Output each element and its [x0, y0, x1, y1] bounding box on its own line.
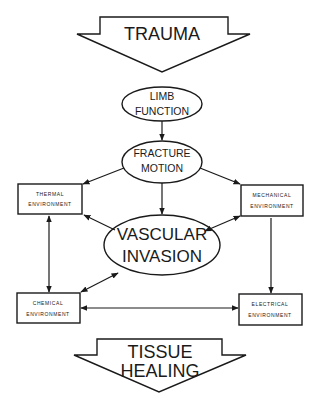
electrical-line1: ELECTRICAL [252, 301, 289, 307]
node-fracture-motion: FRACTURE MOTION [122, 141, 202, 183]
electrical-line2: ENVIRONMENT [248, 312, 292, 318]
limb-function-line1: LIMB [150, 90, 175, 102]
vascular-line1: VASCULAR [117, 225, 207, 244]
limb-function-line2: FUNCTION [135, 105, 189, 117]
edge-vascular-chemical [81, 273, 118, 292]
tissue-healing-arrow: TISSUE HEALING [74, 339, 246, 392]
trauma-label: TRAUMA [124, 24, 200, 44]
fracture-motion-line2: MOTION [141, 162, 183, 174]
node-limb-function: LIMB FUNCTION [122, 87, 202, 121]
flow-diagram: TRAUMA LIMB FUNCTION FRACTURE MOTION THE… [0, 0, 320, 410]
edge-vascular-mechanical [205, 216, 240, 231]
tissue-healing-line2: HEALING [120, 361, 199, 381]
trauma-arrow: TRAUMA [77, 17, 250, 72]
node-vascular-invasion: VASCULAR INVASION [104, 215, 220, 275]
edge-fracture-to-thermal [83, 168, 124, 184]
mechanical-line2: ENVIRONMENT [250, 203, 294, 209]
edge-vascular-to-thermal [84, 215, 115, 230]
node-chemical-environment: CHEMICAL ENVIRONMENT [17, 293, 80, 323]
node-electrical-environment: ELECTRICAL ENVIRONMENT [239, 294, 302, 325]
tissue-healing-line1: TISSUE [127, 342, 192, 362]
fracture-motion-line1: FRACTURE [133, 147, 190, 159]
vascular-line2: INVASION [122, 247, 202, 266]
thermal-line2: ENVIRONMENT [28, 201, 72, 207]
chemical-line2: ENVIRONMENT [26, 311, 70, 317]
edge-fracture-to-mechanical [200, 168, 240, 184]
mechanical-line1: MECHANICAL [253, 192, 292, 198]
chemical-line1: CHEMICAL [33, 300, 64, 306]
node-mechanical-environment: MECHANICAL ENVIRONMENT [241, 185, 303, 216]
node-thermal-environment: THERMAL ENVIRONMENT [18, 184, 82, 214]
thermal-line1: THERMAL [36, 191, 64, 197]
